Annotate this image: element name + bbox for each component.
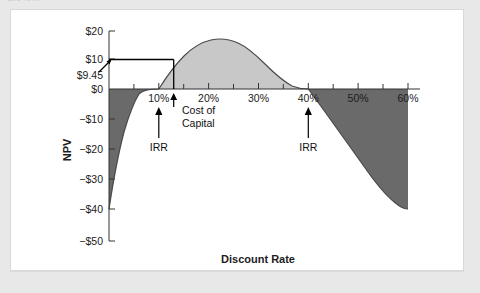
irr-right-annotation: IRR [299,107,318,153]
y-axis-title: NPV [61,138,73,161]
irr-left-label: IRR [150,141,169,153]
y-tick-label-minus20: −$20 [79,143,103,155]
irr-right-arrowhead-icon [305,107,312,115]
x-tick-label-60: 60% [397,92,418,104]
y-tick-label-0: $0 [91,83,103,95]
x-tick-label-50: 50% [348,92,369,104]
x-tick-label-20: 20% [198,92,219,104]
figure-caption-text: and 40%. [8,0,40,2]
area-below-zero-right [308,89,408,209]
figure-panel: $20 $10 $9.45 $0 −$10 −$20 −$30 −$40 −$5… [10,9,464,271]
y-tick-label-945: $9.45 [77,69,103,81]
x-tick-label-40: 40% [298,92,319,104]
y-tick-label-10: $10 [85,53,103,65]
chart-plot-area: $20 $10 $9.45 $0 −$10 −$20 −$30 −$40 −$5… [11,10,463,270]
cost-of-capital-label-line2: Capital [182,117,215,129]
irr-left-arrowhead-icon [155,107,162,115]
y-tick-label-minus50: −$50 [79,235,103,247]
y-tick-label-20: $20 [85,25,103,37]
x-tick-label-10: 10% [148,92,169,104]
irr-left-annotation: IRR [150,107,169,153]
y-tick-label-minus40: −$40 [79,203,103,215]
y-tick-label-minus10: −$10 [79,113,103,125]
irr-right-label: IRR [299,141,318,153]
x-tick-label-30: 30% [248,92,269,104]
figure-caption-strip: and 40%. [0,0,480,9]
cost-of-capital-arrowhead-icon [170,93,177,100]
y-tick-label-minus30: −$30 [79,173,103,185]
cost-of-capital-label-line1: Cost of [182,104,215,116]
npv-profile-chart: $20 $10 $9.45 $0 −$10 −$20 −$30 −$40 −$5… [11,10,463,270]
x-axis-title: Discount Rate [221,253,295,265]
